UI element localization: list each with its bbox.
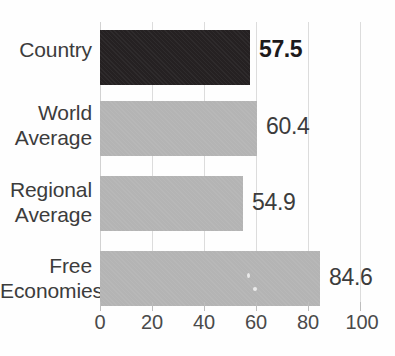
bar-free-economies[interactable] <box>100 251 320 306</box>
value-label-free-economies: 84.6 <box>329 264 373 291</box>
xtick-label-40: 40 <box>193 311 215 334</box>
bar-world-average[interactable] <box>100 101 257 156</box>
tick-80 <box>308 302 309 311</box>
tick-100 <box>360 302 361 311</box>
plot-area <box>100 22 360 302</box>
category-label-line: Economies <box>0 278 92 303</box>
scan-speck <box>247 273 250 278</box>
xtick-label-60: 60 <box>245 311 267 334</box>
xtick-label-20: 20 <box>141 311 163 334</box>
bar-country[interactable] <box>100 30 250 85</box>
category-label-line: Average <box>0 202 92 227</box>
scan-speck <box>253 287 257 291</box>
category-label-country: Country <box>0 37 92 62</box>
tick-0 <box>100 302 101 311</box>
category-label-line: Average <box>0 125 92 150</box>
tick-60 <box>256 302 257 311</box>
category-label-line: World <box>0 100 92 125</box>
category-label-line: Free <box>0 253 92 278</box>
value-label-country: 57.5 <box>259 36 302 63</box>
xtick-label-100: 100 <box>346 311 379 334</box>
value-label-world-average: 60.4 <box>266 113 310 140</box>
category-label-world-average: World Average <box>0 100 92 150</box>
gridline-100 <box>360 22 361 302</box>
xtick-label-80: 80 <box>297 311 319 334</box>
category-label-regional-average: Regional Average <box>0 177 92 227</box>
category-label-free-economies: Free Economies <box>0 253 92 303</box>
bar-chart: Country World Average Regional Average F… <box>0 0 395 356</box>
xtick-label-0: 0 <box>95 311 106 334</box>
value-label-regional-average: 54.9 <box>252 189 296 216</box>
bar-regional-average[interactable] <box>100 176 243 231</box>
tick-20 <box>152 302 153 311</box>
category-label-line: Regional <box>0 177 92 202</box>
tick-40 <box>204 302 205 311</box>
category-label-line: Country <box>0 37 92 62</box>
